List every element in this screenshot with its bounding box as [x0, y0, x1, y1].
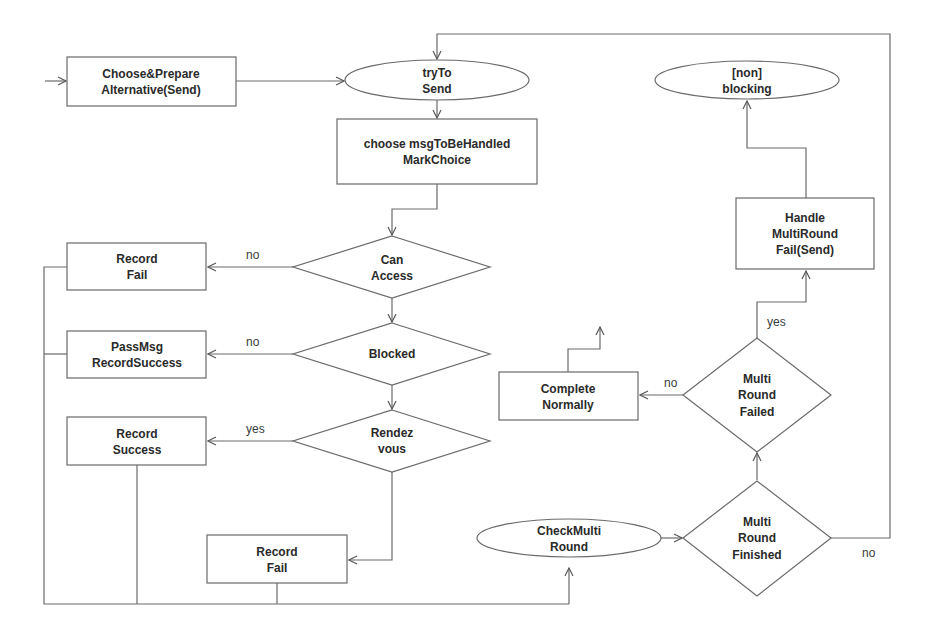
svg-text:Fail(Send): Fail(Send) [776, 243, 834, 257]
svg-text:Rendez: Rendez [371, 426, 414, 440]
svg-text:blocking: blocking [722, 82, 771, 96]
node-handle-multiround-fail: Handle MultiRound Fail(Send) [736, 198, 874, 269]
node-complete-normally: Complete Normally [499, 372, 638, 420]
svg-text:Can: Can [381, 253, 404, 267]
node-choose-msg: choose msgToBeHandled MarkChoice [337, 119, 537, 184]
svg-text:CheckMulti: CheckMulti [537, 524, 601, 538]
svg-text:vous: vous [378, 442, 406, 456]
svg-text:RecordSuccess: RecordSuccess [92, 356, 182, 370]
svg-text:Choose&Prepare: Choose&Prepare [102, 67, 200, 81]
node-choose-prepare: Choose&Prepare Alternative(Send) [67, 57, 236, 106]
svg-text:Failed: Failed [740, 405, 775, 419]
svg-text:Record: Record [116, 252, 157, 266]
svg-text:Fail: Fail [127, 268, 148, 282]
svg-text:Blocked: Blocked [369, 347, 416, 361]
label-finished-no: no [862, 546, 876, 560]
edge-handle-to-non-blocking [747, 101, 806, 198]
svg-text:Normally: Normally [542, 398, 594, 412]
node-can-access: Can Access [293, 236, 490, 298]
svg-text:Record: Record [116, 427, 157, 441]
edge-complete-exit [568, 327, 600, 372]
node-record-fail-2: Record Fail [207, 535, 347, 583]
node-record-success: Record Success [67, 417, 206, 465]
flowchart-canvas: no no yes no yes no Choose&Prepare Alter… [0, 0, 929, 637]
svg-text:Round: Round [738, 388, 776, 402]
svg-text:Record: Record [256, 545, 297, 559]
svg-text:Handle: Handle [785, 211, 825, 225]
node-multi-round-failed: Multi Round Failed [683, 338, 831, 452]
node-record-fail-1: Record Fail [67, 243, 206, 290]
svg-text:PassMsg: PassMsg [111, 340, 163, 354]
label-failed-no: no [664, 376, 678, 390]
svg-text:Finished: Finished [732, 548, 781, 562]
edge-choose-msg-to-can-access [392, 184, 437, 235]
label-can-access-no: no [246, 248, 260, 262]
svg-text:Alternative(Send): Alternative(Send) [101, 83, 200, 97]
svg-text:Multi: Multi [743, 515, 771, 529]
node-blocked: Blocked [293, 323, 490, 385]
svg-text:Round: Round [550, 540, 588, 554]
node-passmsg: PassMsg RecordSuccess [67, 331, 206, 378]
svg-text:Complete: Complete [541, 382, 596, 396]
node-check-multi-round: CheckMulti Round [477, 519, 661, 557]
label-failed-yes: yes [767, 315, 786, 329]
svg-text:MarkChoice: MarkChoice [403, 153, 471, 167]
label-blocked-no: no [246, 335, 260, 349]
svg-text:choose msgToBeHandled: choose msgToBeHandled [364, 137, 510, 151]
svg-text:Round: Round [738, 531, 776, 545]
edge-finished-no-loop [437, 34, 890, 538]
svg-text:Multi: Multi [743, 372, 771, 386]
label-rendezvous-yes: yes [246, 422, 265, 436]
node-multi-round-finished: Multi Round Finished [683, 481, 831, 596]
svg-text:tryTo: tryTo [422, 66, 451, 80]
node-try-to-send: tryTo Send [345, 60, 529, 100]
svg-text:MultiRound: MultiRound [772, 227, 838, 241]
node-rendezvous: Rendez vous [293, 410, 490, 472]
svg-text:Success: Success [113, 443, 162, 457]
svg-text:[non]: [non] [732, 66, 762, 80]
svg-text:Access: Access [371, 269, 413, 283]
svg-text:Send: Send [422, 82, 451, 96]
svg-text:Fail: Fail [267, 561, 288, 575]
edge-rendezvous-to-record-fail [349, 472, 392, 560]
node-non-blocking: [non] blocking [655, 61, 839, 99]
